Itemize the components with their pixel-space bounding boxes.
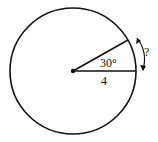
arc-length-label: ? bbox=[144, 45, 149, 59]
angle-label: 30° bbox=[100, 56, 117, 70]
radius-label: 4 bbox=[101, 74, 107, 88]
arrow-head-down-icon bbox=[140, 65, 146, 71]
circle-diagram: 30° 4 ? bbox=[0, 0, 158, 142]
